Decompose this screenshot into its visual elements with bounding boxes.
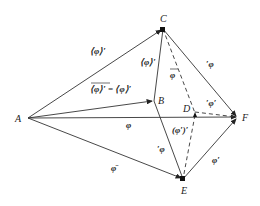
label-BE: ′φ xyxy=(157,144,165,154)
edge-BE xyxy=(154,101,183,179)
point-A-label: A xyxy=(14,113,22,124)
point-C-label: C xyxy=(160,13,167,24)
label-AE: φ̄ xyxy=(111,163,119,173)
vector-diagram: A B C D E F ⟨φ⟩′ ⟨φ⟩′ = ⟨φ⟩′ φ φ̄ ⟨φ⟩′ φ… xyxy=(0,0,260,206)
edge-AB xyxy=(28,101,152,118)
point-E-marker xyxy=(180,176,185,181)
label-CF: ′φ xyxy=(206,59,214,69)
point-C-marker xyxy=(160,27,165,32)
edge-AC xyxy=(28,30,161,118)
label-DE: (φ′)′ xyxy=(172,125,189,135)
point-E-label: E xyxy=(180,185,187,196)
label-AC: ⟨φ⟩′ xyxy=(90,46,106,56)
label-AB: ⟨φ⟩′ = ⟨φ⟩′ xyxy=(90,84,132,94)
label-CD: φ xyxy=(170,70,175,80)
label-DF: ′φ′ xyxy=(206,98,217,108)
point-D-label: D xyxy=(182,103,191,114)
edge-CD xyxy=(163,29,195,113)
point-F-label: F xyxy=(241,112,249,123)
point-D-marker xyxy=(193,112,197,117)
edge-AF xyxy=(28,117,236,118)
point-B-label: B xyxy=(158,95,164,106)
edge-EF xyxy=(183,119,236,179)
edge-DF xyxy=(195,112,236,117)
label-AF: φ xyxy=(126,120,131,130)
label-EF: φ′ xyxy=(212,155,220,165)
label-CB: ⟨φ⟩′ xyxy=(140,57,156,67)
